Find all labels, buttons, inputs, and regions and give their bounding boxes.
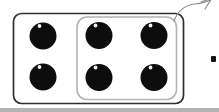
- dot-highlight: [149, 66, 153, 70]
- dot-highlight: [94, 66, 98, 70]
- figure-canvas: [0, 0, 219, 112]
- dot-highlight: [38, 24, 42, 28]
- callout-arrow-icon: [174, 0, 213, 21]
- dot-grouped: [86, 22, 113, 49]
- dot: [30, 64, 57, 91]
- dot-grouped: [141, 64, 168, 91]
- dot-array-figure: [0, 0, 219, 112]
- dot-highlight: [149, 24, 153, 28]
- dot-grouped: [141, 22, 168, 49]
- dot-grouped: [86, 64, 113, 91]
- dot: [30, 23, 57, 50]
- dot-highlight: [94, 24, 98, 28]
- dot-highlight: [38, 65, 42, 69]
- bottom-crop-strip: [0, 108, 219, 112]
- edge-bullet-mark: [211, 56, 216, 62]
